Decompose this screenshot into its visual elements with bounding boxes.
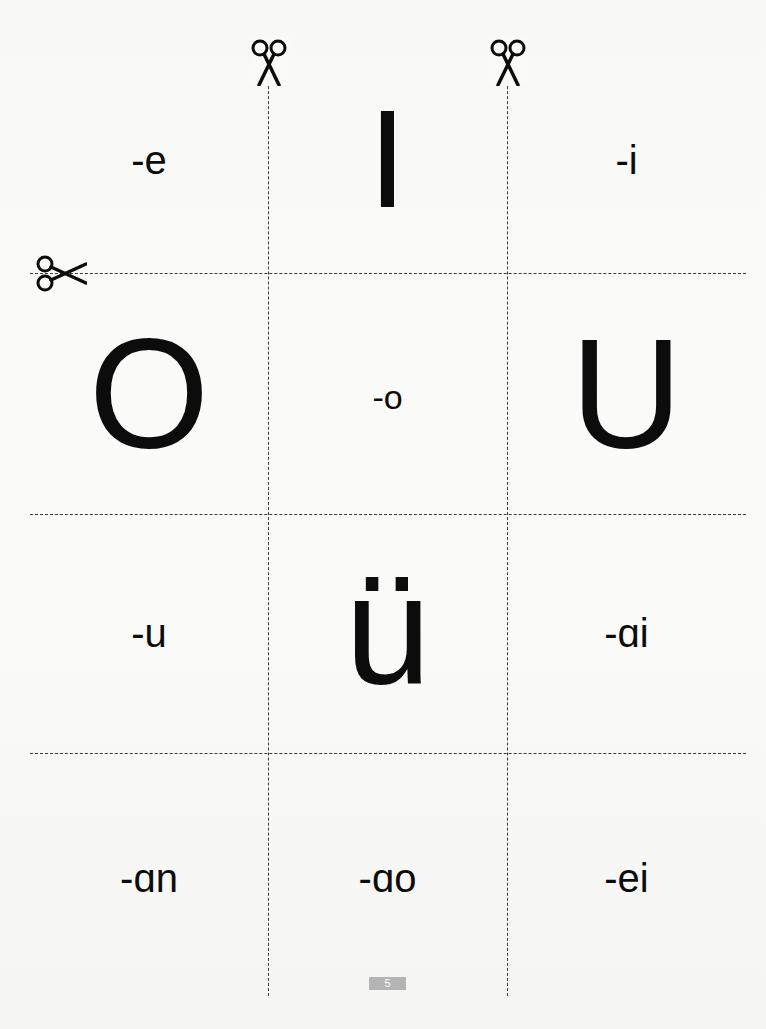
card-text: -e [131,138,167,183]
page-number: 5 [369,977,406,990]
card-ai-final: -ɑi [507,514,746,753]
card-u-umlaut: ü [268,514,507,753]
card-text: -o [372,378,402,417]
card-u-final: -u [30,514,268,753]
card-text: -ɑn [120,856,178,901]
card-capital-o: O [30,273,268,514]
card-ao-final: -ɑo [268,753,507,996]
card-text: I [368,89,407,229]
worksheet-page: -e I -i O -o U -u ü -ɑi -ɑn -ɑo -ei 5 [0,0,766,1029]
card-ei-final: -ei [507,753,746,996]
card-i-final: -i [507,36,746,273]
card-text: -u [131,611,167,656]
card-o-final: -o [268,273,507,514]
card-text: -ei [604,856,648,901]
card-text: O [89,316,210,471]
card-text: ü [344,552,430,707]
card-text: -i [615,138,637,183]
card-capital-u: U [507,273,746,514]
card-text: -ɑi [604,611,648,656]
card-an-final: -ɑn [30,753,268,996]
card-e-final: -e [30,36,268,273]
card-text: -ɑo [359,856,417,901]
card-capital-i: I [268,36,507,273]
card-text: U [571,316,683,471]
